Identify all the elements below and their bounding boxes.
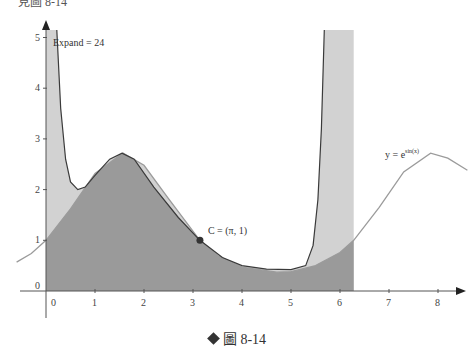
x-tick-label: 6 (337, 297, 342, 308)
y-tick-label: 3 (35, 133, 40, 144)
y-tick-label: 1 (35, 234, 40, 245)
x-tick-label: 4 (239, 297, 244, 308)
dark-shaded-region (46, 154, 354, 291)
chart-plot: 012345678012345 C = (π, 1) Expand = 24 y… (0, 0, 475, 361)
shaded-regions (46, 30, 354, 291)
y-axis-arrow-icon (42, 20, 50, 30)
y-tick-label: 0 (35, 280, 40, 291)
y-tick-label: 2 (35, 184, 40, 195)
x-tick-label: 1 (92, 297, 97, 308)
y-tick-label: 4 (35, 82, 40, 93)
x-tick-label: 0 (51, 297, 56, 308)
caption-text: 圖 8-14 (223, 332, 266, 347)
x-axis-arrow-icon (456, 287, 466, 295)
x-tick-label: 3 (190, 297, 195, 308)
y-tick-label: 5 (35, 32, 40, 43)
x-tick-label: 5 (288, 297, 293, 308)
point-c-marker[interactable] (196, 237, 203, 244)
x-tick-label: 2 (141, 297, 146, 308)
point-c-label: C = (π, 1) (208, 225, 247, 237)
curve-label: y = esin(x) (385, 148, 419, 160)
diamond-icon (207, 332, 220, 345)
figure-caption: 圖 8-14 (0, 328, 475, 348)
x-tick-label: 8 (435, 297, 440, 308)
expand-label: Expand = 24 (53, 37, 104, 48)
x-tick-label: 7 (386, 297, 391, 308)
